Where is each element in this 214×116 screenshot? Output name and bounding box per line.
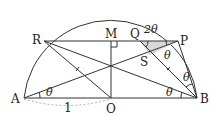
label-M: M — [105, 27, 117, 41]
right-angle-mark-M — [111, 41, 117, 47]
angle-arc-A — [39, 92, 40, 98]
label-O: O — [106, 102, 116, 116]
length-label-AO: 1 — [64, 101, 72, 115]
angle-label-Q: 2θ — [143, 23, 158, 36]
angle-label-P: θ — [164, 49, 171, 62]
label-A: A — [10, 92, 20, 106]
segment-RB — [44, 41, 197, 98]
label-P: P — [180, 34, 188, 48]
label-S: S — [140, 55, 148, 69]
segment-PB — [178, 41, 197, 98]
angle-label-B-upper: θ — [183, 71, 190, 84]
angle-label-B-lower: θ — [166, 86, 173, 99]
label-B: B — [200, 92, 209, 106]
angle-label-A: θ — [46, 86, 53, 99]
label-R: R — [32, 33, 42, 47]
label-Q: Q — [130, 27, 140, 41]
angle-arc-B — [181, 92, 182, 98]
geometry-diagram: A O B R M Q P S θ θ θ θ 2θ 1 — [0, 0, 214, 116]
angle-arc-B-upper — [186, 84, 192, 87]
